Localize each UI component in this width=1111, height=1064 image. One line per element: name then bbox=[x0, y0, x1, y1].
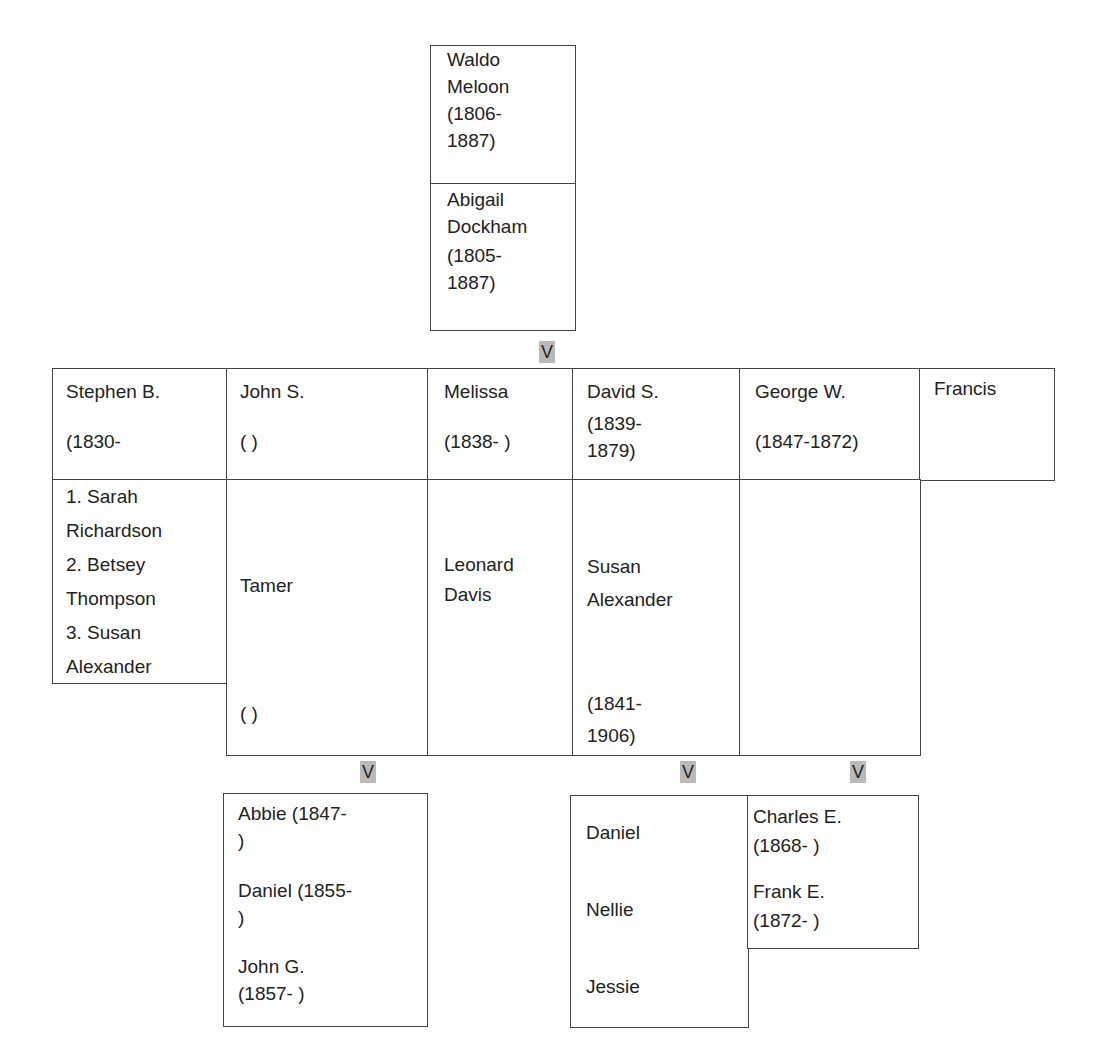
grandchild: John G. (1857- ) bbox=[238, 953, 305, 1007]
down-arrow-icon: V bbox=[680, 761, 696, 783]
grandchild: Frank E. (1872- ) bbox=[753, 877, 825, 935]
child-name: Francis bbox=[934, 375, 996, 402]
spouse-cell-george bbox=[739, 479, 921, 756]
child-dates: (1847-1872) bbox=[755, 428, 859, 455]
spouse-dates: (1841- 1906) bbox=[587, 688, 642, 752]
parents-divider bbox=[430, 183, 576, 184]
child-dates: (1830- bbox=[66, 428, 121, 455]
father-name: Waldo Meloon bbox=[447, 46, 509, 100]
grandchild: Charles E. (1868- ) bbox=[753, 802, 842, 860]
child-name: David S. bbox=[587, 378, 659, 405]
child-name: Melissa bbox=[444, 378, 508, 405]
down-arrow-icon: V bbox=[539, 341, 555, 363]
mother-name: Abigail Dockham bbox=[447, 186, 527, 240]
child-dates: (1838- ) bbox=[444, 428, 511, 455]
mother-dates: (1805- 1887) bbox=[447, 242, 502, 296]
grandchild: Nellie bbox=[586, 896, 634, 923]
down-arrow-icon: V bbox=[360, 761, 376, 783]
grandchild: Abbie (1847- ) bbox=[238, 800, 347, 854]
down-arrow-icon: V bbox=[850, 761, 866, 783]
child-dates: ( ) bbox=[240, 428, 258, 455]
grandchild: Daniel bbox=[586, 819, 640, 846]
spouse-cell-melissa bbox=[427, 479, 574, 756]
spouse-name: Tamer bbox=[240, 572, 293, 599]
spouse-dates: ( ) bbox=[240, 700, 258, 727]
child-dates: (1839- 1879) bbox=[587, 410, 642, 464]
spouse-list: 1. Sarah Richardson 2. Betsey Thompson 3… bbox=[66, 480, 162, 684]
grandchild: Daniel (1855- ) bbox=[238, 877, 352, 931]
spouse-name: Leonard Davis bbox=[444, 550, 514, 610]
father-dates: (1806- 1887) bbox=[447, 100, 502, 154]
grandchild: Jessie bbox=[586, 973, 640, 1000]
child-name: George W. bbox=[755, 378, 846, 405]
spouse-name: Susan Alexander bbox=[587, 550, 673, 616]
child-name: Stephen B. bbox=[66, 378, 160, 405]
child-name: John S. bbox=[240, 378, 304, 405]
